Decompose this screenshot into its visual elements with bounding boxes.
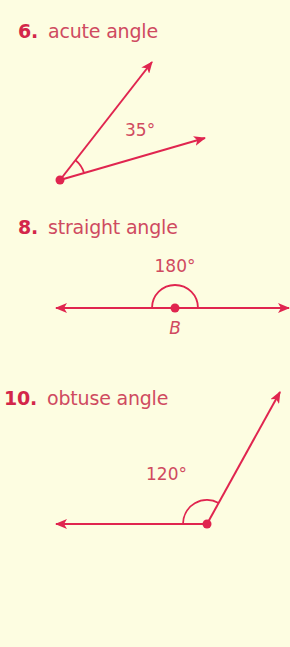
angle-measure: 35° <box>125 120 155 140</box>
angle-measure: 180° <box>155 256 196 276</box>
acute-angle-diagram: 35° <box>56 62 206 185</box>
obtuse-angle-diagram: 120° <box>56 392 280 529</box>
angle-measure: 120° <box>146 464 187 484</box>
ray-upper <box>207 392 280 524</box>
vertex-dot <box>56 176 65 185</box>
vertex-dot <box>203 520 212 529</box>
ray-lower <box>60 138 205 180</box>
straight-angle-diagram: 180° B <box>56 256 289 338</box>
vertex-label: B <box>169 318 181 338</box>
angle-arc <box>76 160 85 173</box>
vertex-dot <box>171 304 180 313</box>
angle-diagrams: 35° 180° B 120° <box>0 0 290 647</box>
